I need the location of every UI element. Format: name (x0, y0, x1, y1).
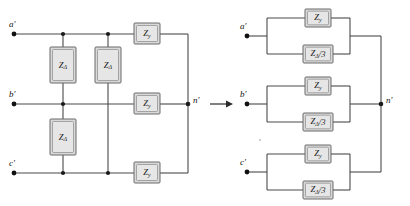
terminal-label-a-right: a′ (240, 21, 248, 31)
junction-dot-a-col2 (106, 32, 110, 36)
left-circuit-group: ZΔ ZΔ ZΔ Zy Zy Zy (9, 19, 201, 183)
impedance-label-z-delta-3-b: ZΔ/3 (311, 116, 326, 127)
impedance-label-z-delta-3-c: ZΔ/3 (311, 184, 326, 195)
junction-dot-neutral-right (379, 102, 384, 107)
junction-dot-neutral-left (186, 102, 191, 107)
terminal-label-n-left: n′ (193, 95, 201, 105)
terminal-label-c-left: c′ (9, 158, 16, 168)
terminal-dot-c-right[interactable] (245, 170, 250, 175)
impedance-label-z-delta-3-a: ZΔ/3 (311, 48, 326, 59)
terminal-dot-c-left[interactable] (12, 171, 17, 176)
circuit-canvas: ZΔ ZΔ ZΔ Zy Zy Zy (0, 0, 410, 206)
right-circuit-group: Zy ZΔ/3 Zy ZΔ/3 (240, 9, 394, 199)
transformation-arrow (210, 101, 233, 108)
terminal-dot-a-left[interactable] (12, 32, 17, 37)
junction-dot-c-col2 (106, 171, 110, 175)
terminal-dot-b-left[interactable] (12, 102, 17, 107)
junction-dot-c-col1 (61, 171, 65, 175)
terminal-label-b-right: b′ (240, 89, 248, 99)
terminal-label-a-left: a′ (9, 19, 17, 29)
terminal-label-n-right: n′ (386, 95, 394, 105)
terminal-dot-a-right[interactable] (245, 34, 250, 39)
junction-dot-b-col1 (61, 102, 65, 106)
scan-speck (259, 139, 261, 141)
terminal-dot-b-right[interactable] (245, 102, 250, 107)
arrow-head (226, 101, 233, 108)
junction-dot-a-col1 (61, 32, 65, 36)
circuit-diagram-figure: ZΔ ZΔ ZΔ Zy Zy Zy (0, 0, 410, 206)
terminal-label-b-left: b′ (9, 89, 17, 99)
terminal-label-c-right: c′ (240, 157, 247, 167)
